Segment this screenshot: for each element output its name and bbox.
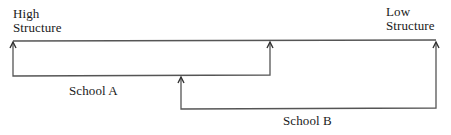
high-label-line2: Structure	[13, 21, 62, 35]
high-structure-label: High Structure	[13, 7, 62, 35]
low-label-line2: Structure	[386, 19, 435, 33]
school-b-label: School B	[283, 114, 332, 128]
diagram-lines	[0, 0, 451, 135]
low-label-line1: Low	[386, 5, 435, 19]
low-structure-label: Low Structure	[386, 5, 435, 33]
continuum-line	[13, 40, 436, 41]
school-a-label: School A	[69, 84, 118, 98]
high-label-line1: High	[13, 7, 62, 21]
school-a-bracket	[10, 42, 273, 76]
